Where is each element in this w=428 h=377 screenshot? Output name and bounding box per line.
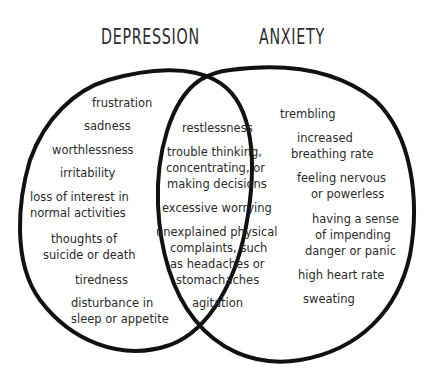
symptom-label: of impending — [315, 228, 391, 243]
symptom-label: sweating — [303, 292, 355, 307]
symptom-label: trouble thinking, — [167, 145, 262, 160]
symptom-label: loss of interest in — [30, 190, 129, 205]
symptom-label: suicide or death — [43, 248, 136, 263]
symptom-label: tiredness — [75, 273, 128, 288]
symptom-label: stomachaches — [176, 273, 259, 288]
symptom-label: sadness — [84, 119, 131, 134]
symptom-label: increased — [297, 131, 353, 146]
symptom-label: concentrating, or — [166, 161, 265, 176]
symptom-label: trembling — [280, 107, 336, 122]
symptom-label: as headaches or — [170, 257, 265, 272]
depression-title: DEPRESSION — [101, 24, 200, 49]
symptom-label: breathing rate — [291, 147, 374, 162]
symptom-label: irritability — [60, 166, 115, 181]
symptom-label: danger or panic — [305, 244, 396, 259]
symptom-label: agitation — [192, 296, 243, 311]
symptom-label: complaints, such — [170, 241, 267, 256]
symptom-label: excessive worrying — [162, 201, 272, 216]
symptom-label: thoughts of — [51, 232, 117, 247]
symptom-label: making decisions — [167, 177, 267, 192]
anxiety-title: ANXIETY — [259, 24, 325, 49]
symptom-label: worthlessness — [52, 143, 134, 158]
symptom-label: high heart rate — [298, 268, 384, 283]
symptom-label: restlessness — [182, 121, 253, 136]
symptom-label: normal activities — [30, 206, 126, 221]
symptom-label: disturbance in — [71, 296, 153, 311]
symptom-label: unexplained physical — [156, 225, 277, 240]
symptom-label: having a sense — [312, 212, 399, 227]
symptom-label: sleep or appetite — [71, 312, 169, 327]
symptom-label: frustration — [92, 96, 152, 111]
symptom-label: or powerless — [311, 187, 384, 202]
symptom-label: feeling nervous — [297, 171, 386, 186]
